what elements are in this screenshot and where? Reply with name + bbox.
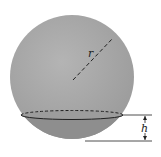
height-arrow-down	[143, 136, 147, 140]
height-arrow-up	[143, 116, 147, 120]
sphere-cap-diagram: r h	[0, 0, 161, 157]
radius-label: r	[88, 47, 94, 60]
height-label: h	[141, 122, 148, 135]
